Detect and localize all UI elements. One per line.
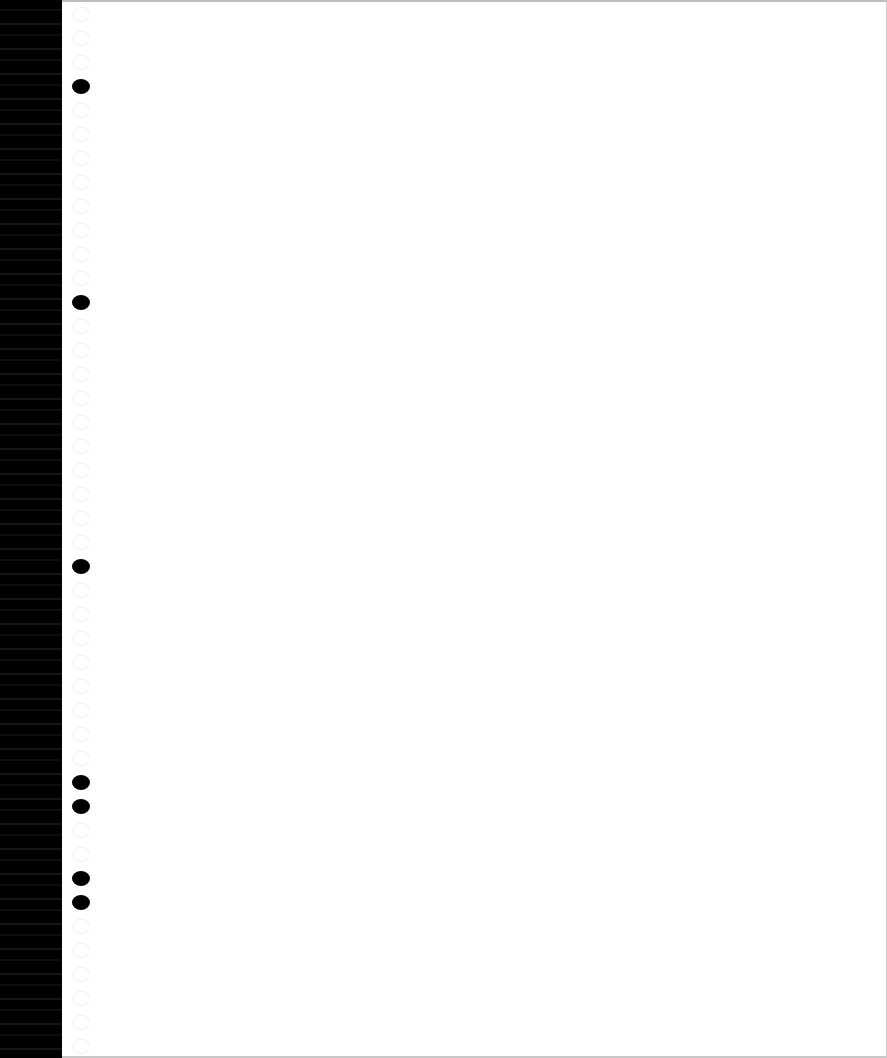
unpunched-hole-icon bbox=[72, 271, 90, 286]
unpunched-hole-icon bbox=[72, 199, 90, 214]
unpunched-hole-icon bbox=[72, 367, 90, 382]
punched-hole-icon bbox=[72, 895, 90, 910]
punched-hole-icon bbox=[72, 559, 90, 574]
unpunched-hole-icon bbox=[72, 487, 90, 502]
unpunched-hole-icon bbox=[72, 631, 90, 646]
punched-hole-icon bbox=[72, 775, 90, 790]
unpunched-hole-icon bbox=[72, 655, 90, 670]
unpunched-hole-icon bbox=[72, 1039, 90, 1054]
unpunched-hole-icon bbox=[72, 703, 90, 718]
unpunched-hole-icon bbox=[72, 847, 90, 862]
unpunched-hole-icon bbox=[72, 7, 90, 22]
unpunched-hole-icon bbox=[72, 607, 90, 622]
unpunched-hole-icon bbox=[72, 727, 90, 742]
unpunched-hole-icon bbox=[72, 823, 90, 838]
unpunched-hole-icon bbox=[72, 343, 90, 358]
unpunched-hole-icon bbox=[72, 415, 90, 430]
scan-edge-strip bbox=[0, 0, 62, 1058]
unpunched-hole-icon bbox=[72, 223, 90, 238]
unpunched-hole-icon bbox=[72, 1015, 90, 1030]
unpunched-hole-icon bbox=[72, 751, 90, 766]
unpunched-hole-icon bbox=[72, 439, 90, 454]
unpunched-hole-icon bbox=[72, 991, 90, 1006]
unpunched-hole-icon bbox=[72, 583, 90, 598]
punched-hole-icon bbox=[72, 79, 90, 94]
punched-hole-icon bbox=[72, 871, 90, 886]
unpunched-hole-icon bbox=[72, 31, 90, 46]
blank-page bbox=[62, 0, 887, 1058]
margin-punch-holes bbox=[72, 0, 92, 1058]
unpunched-hole-icon bbox=[72, 511, 90, 526]
unpunched-hole-icon bbox=[72, 151, 90, 166]
unpunched-hole-icon bbox=[72, 535, 90, 550]
punched-hole-icon bbox=[72, 295, 90, 310]
unpunched-hole-icon bbox=[72, 679, 90, 694]
unpunched-hole-icon bbox=[72, 391, 90, 406]
unpunched-hole-icon bbox=[72, 127, 90, 142]
unpunched-hole-icon bbox=[72, 919, 90, 934]
unpunched-hole-icon bbox=[72, 175, 90, 190]
unpunched-hole-icon bbox=[72, 103, 90, 118]
unpunched-hole-icon bbox=[72, 319, 90, 334]
punched-hole-icon bbox=[72, 799, 90, 814]
unpunched-hole-icon bbox=[72, 463, 90, 478]
unpunched-hole-icon bbox=[72, 943, 90, 958]
unpunched-hole-icon bbox=[72, 247, 90, 262]
unpunched-hole-icon bbox=[72, 967, 90, 982]
unpunched-hole-icon bbox=[72, 55, 90, 70]
